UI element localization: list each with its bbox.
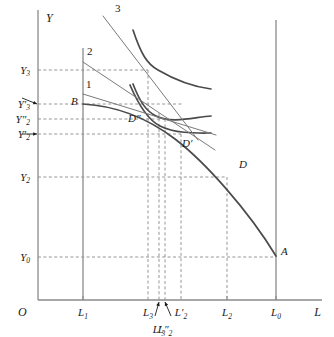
dashed-vertical-group (148, 70, 227, 300)
y-tick-label-Y0: Y0 (20, 251, 30, 266)
series-indifference-curve-3 (133, 30, 211, 89)
arrow-L2pp (165, 302, 171, 316)
y-tick-label-Y2pp: Y″2 (16, 113, 31, 128)
plot-canvas: Y3Y′3Y″2Y′2Y2Y0L1L3L′3L″2L′2L2L0YLOABDD′… (0, 0, 334, 337)
point-label-Dp: D′ (181, 137, 193, 149)
curve-group (83, 16, 276, 256)
origin-label: O (18, 305, 27, 319)
x-tick-label-L0: L0 (270, 306, 281, 321)
y-tick-label-Y3: Y3 (20, 64, 30, 79)
economics-diagram: Y3Y′3Y″2Y′2Y2Y0L1L3L′3L″2L′2L2L0YLOABDD′… (0, 0, 334, 337)
x-tick-label-L1: L1 (77, 306, 88, 321)
point-label-A: A (280, 245, 288, 257)
point-label-B: B (71, 95, 78, 107)
curve-label-c2: 2 (87, 45, 93, 57)
y-tick-label-Y2: Y2 (20, 171, 30, 186)
y-tick-label-Y3p: Y′3 (18, 98, 31, 113)
annotation-arrow-group (22, 98, 171, 316)
curve-label-c3: 3 (115, 2, 121, 14)
series-budget-line-1 (83, 94, 216, 135)
y-tick-label-Y2p: Y′2 (18, 128, 31, 143)
x-axis-label: L (313, 305, 321, 319)
y-axis-label: Y (46, 11, 54, 25)
series-budget-line-3 (103, 16, 198, 140)
curve-label-c1: 1 (86, 78, 92, 90)
arrow-L3p (155, 302, 160, 316)
vertical-reference-line-group (83, 20, 276, 300)
x-tick-label-L2: L2 (221, 306, 232, 321)
series-indifference-curve-2 (133, 84, 211, 120)
axis-group (38, 10, 322, 300)
x-tick-label-L2pp: L″2 (157, 323, 173, 337)
x-tick-label-L2p: L′2 (174, 306, 188, 321)
x-tick-label-L3: L3 (142, 306, 153, 321)
point-label-Dpp: D″ (127, 112, 141, 124)
point-label-D: D (238, 158, 247, 170)
series-indifference-curve-1 (130, 85, 211, 133)
